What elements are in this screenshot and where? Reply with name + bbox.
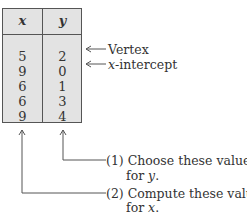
step2-pre: for	[126, 200, 148, 213]
step2-line1: (2) Compute these values	[106, 186, 247, 201]
step1-line1: (1) Choose these values	[106, 153, 247, 168]
step1-pre: for	[126, 168, 148, 183]
x-intercept-text: -intercept	[115, 57, 177, 72]
x-intercept-var: x	[108, 57, 115, 72]
vertex-label: Vertex	[108, 42, 149, 57]
step1-line2: for y.	[126, 168, 159, 183]
step2-post: .	[155, 200, 159, 213]
step1-post: .	[155, 168, 159, 183]
annotation-arrows	[0, 0, 247, 213]
x-intercept-label: x-intercept	[108, 57, 177, 72]
step2-line2: for x.	[126, 200, 159, 213]
